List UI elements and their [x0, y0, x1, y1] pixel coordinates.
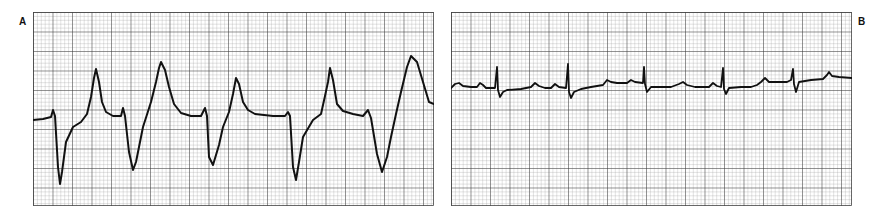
panel-b-label: B: [858, 16, 865, 27]
ecg-strip-b: [451, 12, 852, 206]
ecg-grid-b: [451, 12, 852, 206]
ecg-grid-a: [33, 12, 434, 206]
panel-a-label: A: [19, 16, 26, 27]
ecg-strip-a: [33, 12, 434, 206]
